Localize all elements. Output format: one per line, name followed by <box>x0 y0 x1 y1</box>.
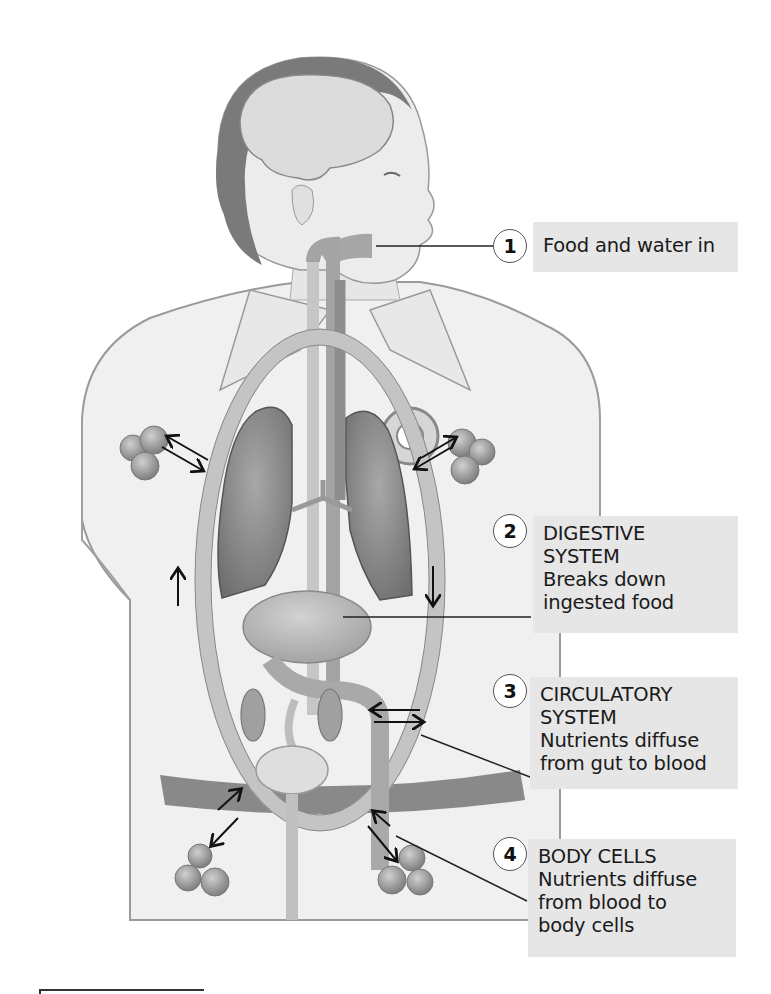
callout-1-line-1: Food and water in <box>543 234 715 257</box>
callout-3-line-2: SYSTEM <box>540 706 730 729</box>
callout-4-line-3: from blood to <box>538 891 728 914</box>
callout-3-label: CIRCULATORY SYSTEM Nutrients diffuse fro… <box>530 677 738 789</box>
kidney-left <box>241 689 265 741</box>
callout-3-line-4: from gut to blood <box>540 752 730 775</box>
callout-3-line-3: Nutrients diffuse <box>540 729 730 752</box>
kidney-right <box>318 689 342 741</box>
callout-1-number: 1 <box>493 229 527 263</box>
callout-3-number: 3 <box>493 674 527 708</box>
bladder <box>256 746 328 794</box>
callout-1-label: Food and water in <box>533 222 738 272</box>
callout-2-number: 2 <box>493 514 527 548</box>
stomach <box>243 591 371 663</box>
callout-4-label: BODY CELLS Nutrients diffuse from blood … <box>528 839 736 957</box>
anatomy-figure: 1 Food and water in 2 DIGESTIVE SYSTEM B… <box>0 0 771 994</box>
callout-3-line-1: CIRCULATORY <box>540 683 730 706</box>
callout-4-line-4: body cells <box>538 914 728 937</box>
callout-2-line-3: Breaks down <box>543 568 730 591</box>
bottom-rule <box>39 989 204 991</box>
callout-2-label: DIGESTIVE SYSTEM Breaks down ingested fo… <box>533 516 738 633</box>
callout-2-line-2: SYSTEM <box>543 545 730 568</box>
callout-2-line-1: DIGESTIVE <box>543 522 730 545</box>
callout-4-number: 4 <box>493 837 527 871</box>
callout-2-line-4: ingested food <box>543 591 730 614</box>
callout-4-line-1: BODY CELLS <box>538 845 728 868</box>
callout-4-line-2: Nutrients diffuse <box>538 868 728 891</box>
